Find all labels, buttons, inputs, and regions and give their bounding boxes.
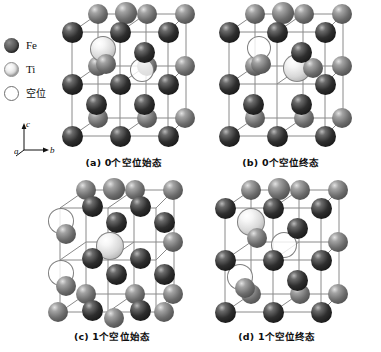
- atom-fe: [243, 94, 264, 115]
- panel-c-lattice: [46, 178, 178, 328]
- atom-fe: [175, 108, 195, 128]
- atom-fe: [154, 264, 175, 285]
- atom-fe: [163, 284, 183, 304]
- atom-fe: [62, 22, 83, 43]
- atom-fe: [267, 126, 288, 147]
- atom-fe: [110, 74, 131, 95]
- atom-fe: [268, 178, 290, 200]
- atom-fe: [48, 302, 68, 322]
- atom-fe: [103, 178, 125, 200]
- panel-b-0-vacancy-final: (b) 0个空位终态: [215, 2, 347, 178]
- atom-fe: [56, 276, 76, 296]
- legend-label-ti: Ti: [26, 64, 35, 75]
- atom-fe: [88, 4, 108, 24]
- atom-fe: [86, 94, 107, 115]
- panel-a-lattice: [58, 2, 190, 152]
- atom-fe: [175, 56, 195, 76]
- atom-fe: [272, 2, 294, 24]
- atom-fe: [263, 250, 284, 271]
- atom-fe: [62, 126, 83, 147]
- legend-item-fe: Fe: [4, 33, 62, 57]
- atom-fe: [134, 42, 155, 63]
- atom-fe: [130, 248, 151, 269]
- atom-fe: [130, 300, 151, 321]
- atom-fe: [134, 94, 155, 115]
- atom-fe: [82, 300, 103, 321]
- panel-c-caption: (c) 1个空位始态: [46, 329, 178, 343]
- atom-fe: [215, 250, 236, 271]
- atom-fe: [332, 56, 352, 76]
- atom-fe: [219, 126, 240, 147]
- atom-fe: [110, 22, 131, 43]
- panel-a-0-vacancy-initial: (a) 0个空位始态: [58, 2, 190, 178]
- atom-fe: [235, 278, 255, 298]
- atom-fe: [315, 22, 336, 43]
- atom-fe: [263, 198, 284, 219]
- panel-c-1-vacancy-initial: (c) 1个空位始态: [46, 178, 178, 352]
- axis-label-c: c: [26, 119, 30, 129]
- panel-b-caption: (b) 0个空位终态: [215, 155, 347, 169]
- atom-fe: [158, 74, 179, 95]
- atom-fe: [328, 232, 348, 252]
- atom-fe: [311, 250, 332, 271]
- atom-fe: [115, 2, 137, 24]
- panel-d-1-vacancy-final: (d) 1个空位终态: [211, 178, 343, 352]
- atom-fe: [163, 232, 183, 252]
- atom-fe: [106, 264, 127, 285]
- atom-fe: [287, 218, 308, 239]
- panel-d-caption: (d) 1个空位终态: [211, 329, 343, 343]
- atom-fe: [291, 42, 312, 63]
- atom-fe: [247, 228, 267, 248]
- atom-fe: [219, 74, 240, 95]
- atom-fe: [328, 180, 348, 200]
- legend-label-fe: Fe: [26, 40, 37, 51]
- atom-fe: [311, 302, 332, 323]
- atom-fe: [104, 308, 124, 328]
- atom-fe: [332, 108, 352, 128]
- atom-fe: [154, 302, 174, 322]
- atom-fe: [137, 4, 157, 24]
- legend-item-vacancy: 空位: [4, 81, 62, 105]
- atom-fe: [287, 270, 308, 291]
- atom-fe: [158, 126, 179, 147]
- atom-fe: [332, 4, 352, 24]
- panel-b-lattice: [215, 2, 347, 152]
- atom-fe: [290, 180, 310, 200]
- panel-d-lattice: [211, 178, 343, 328]
- atom-fe: [215, 302, 236, 323]
- atom-fe: [291, 94, 312, 115]
- axis-label-a: a: [14, 146, 19, 156]
- atom-legend: Fe Ti 空位: [4, 33, 62, 105]
- ti-sphere-icon: [4, 62, 19, 77]
- atom-fe: [62, 74, 83, 95]
- atom-fe: [56, 224, 76, 244]
- atom-fe: [311, 198, 332, 219]
- atom-fe: [241, 180, 261, 200]
- atom-fe: [315, 126, 336, 147]
- atom-fe: [219, 22, 240, 43]
- panel-a-caption: (a) 0个空位始态: [58, 155, 190, 169]
- atom-fe: [215, 198, 236, 219]
- atom-fe: [175, 4, 195, 24]
- atom-fe: [106, 212, 127, 233]
- atom-fe: [315, 74, 336, 95]
- atom-fe: [82, 248, 103, 269]
- atom-fe: [163, 180, 183, 200]
- atom-fe: [267, 22, 288, 43]
- atom-fe: [251, 54, 271, 74]
- atom-fe: [110, 126, 131, 147]
- axis-label-b: b: [50, 145, 55, 155]
- crystal-axis-indicator: c b a: [14, 118, 60, 158]
- vacancy-circle-icon: [4, 86, 19, 101]
- legend-item-ti: Ti: [4, 57, 62, 81]
- legend-label-vacancy: 空位: [26, 88, 46, 99]
- atom-fe: [158, 22, 179, 43]
- atom-fe: [263, 302, 284, 323]
- atom-fe: [82, 196, 103, 217]
- crystal-structure-figure: Fe Ti 空位 c b a: [0, 0, 381, 352]
- atom-fe: [245, 4, 265, 24]
- fe-sphere-icon: [4, 38, 19, 53]
- atom-fe: [130, 196, 151, 217]
- atom-fe: [294, 4, 314, 24]
- atom-fe: [328, 284, 348, 304]
